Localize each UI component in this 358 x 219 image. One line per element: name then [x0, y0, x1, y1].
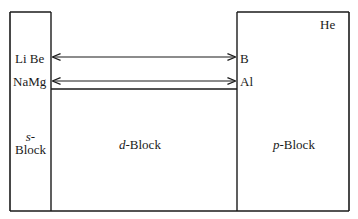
- label-al: Al: [240, 75, 253, 88]
- d-block-label: d-Block: [119, 138, 161, 151]
- diagram-lines: [0, 0, 358, 219]
- p-block-label: p-Block: [273, 138, 315, 151]
- label-he: He: [320, 18, 335, 31]
- p-block-outline: [237, 12, 349, 211]
- s-block-outline: [10, 12, 51, 211]
- label-li-be: Li Be: [15, 52, 44, 65]
- s-block-word: Block: [15, 142, 46, 157]
- s-block-label: s- Block: [10, 130, 51, 156]
- label-na-mg: NaMg: [13, 75, 46, 88]
- label-b: B: [240, 52, 249, 65]
- periodic-table-diagram: Li Be NaMg B Al He s- Block d-Block p-Bl…: [0, 0, 358, 219]
